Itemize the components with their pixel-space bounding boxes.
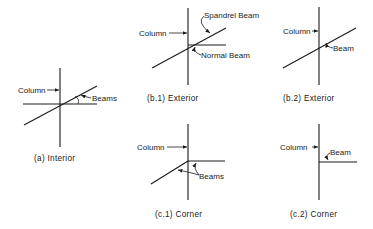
panel-corner-1: Column Beams (c.1) Corner: [137, 124, 225, 219]
panel-caption: (c.2) Corner: [290, 210, 337, 219]
panel-caption: (a) Interior: [34, 154, 75, 163]
beams-leader: [81, 95, 91, 98]
panel-corner-2: Column Beam (c.2) Corner: [280, 124, 357, 219]
column-label: Column: [283, 27, 311, 36]
column-label: Column: [18, 86, 46, 95]
beam-label: Beam: [333, 44, 354, 53]
panel-exterior-1: Column Spandrel Beam Normal Beam (b.1) E…: [139, 8, 259, 103]
panel-caption: (b.1) Exterior: [147, 94, 199, 103]
column-label: Column: [137, 143, 165, 152]
spandrel-beam-label: Spandrel Beam: [204, 11, 259, 20]
beams-label: Beams: [199, 172, 224, 181]
beam-line-diagonal: [151, 161, 188, 184]
panel-caption: (b.2) Exterior: [283, 94, 335, 103]
panel-caption: (c.1) Corner: [155, 210, 202, 219]
normal-beam-label: Normal Beam: [201, 51, 250, 60]
panel-exterior-2: Column Beam (b.2) Exterior: [283, 7, 356, 103]
column-label: Column: [280, 143, 308, 152]
beams-label: Beams: [92, 94, 117, 103]
panel-interior: Column Beams (a) Interior: [18, 68, 117, 163]
beam-column-joint-diagram: Column Beams (a) Interior Column Spandre…: [0, 0, 373, 229]
beam-label: Beam: [330, 148, 351, 157]
column-label: Column: [139, 29, 167, 38]
